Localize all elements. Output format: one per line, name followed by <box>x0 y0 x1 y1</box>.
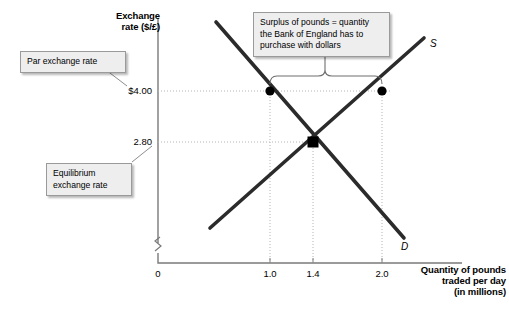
leader-lines-group <box>106 70 152 162</box>
callout-surplus-explanation: Surplus of pounds = quantity the Bank of… <box>253 12 390 57</box>
data-markers-group <box>265 86 386 147</box>
y-axis-break-icon <box>155 237 161 251</box>
x-tick-marks-group <box>270 258 382 263</box>
guide-lines-group <box>158 91 390 263</box>
callout-par-exchange-rate: Par exchange rate <box>20 51 126 73</box>
callout-equilibrium-exchange-rate: Equilibrium exchange rate <box>46 163 132 196</box>
surplus-brace <box>270 57 382 84</box>
x-tick-label-2-0: 2.0 <box>365 268 399 279</box>
x-tick-label-1-4: 1.4 <box>296 268 330 279</box>
x-tick-label-1-0: 1.0 <box>253 268 287 279</box>
marker-quantity-supplied-at-par <box>377 86 386 95</box>
x-axis-line <box>158 253 462 263</box>
demand-curve-label: D <box>401 241 408 253</box>
marker-quantity-demanded-at-par <box>265 86 274 95</box>
y-tick-label-equilibrium-rate: 2.80 <box>108 136 152 147</box>
exchange-rate-supply-demand-figure: Exchange rate ($/£) Quantity of pounds t… <box>0 0 509 310</box>
supply-curve <box>210 38 424 228</box>
x-axis-title: Quantity of pounds traded per day (in mi… <box>398 264 506 298</box>
y-axis-title: Exchange rate ($/£) <box>88 10 160 32</box>
supply-curve-label: S <box>430 38 437 50</box>
marker-equilibrium-point <box>308 137 319 148</box>
x-tick-label-0: 0 <box>141 268 175 279</box>
y-tick-label-par-rate: $4.00 <box>108 85 152 96</box>
leader-equilibrium-exchange-rate <box>132 146 152 162</box>
